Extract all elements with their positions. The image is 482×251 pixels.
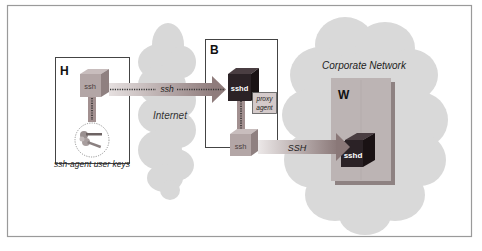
b-ssh-label: ssh — [235, 142, 247, 151]
agent-label: agent — [256, 104, 273, 112]
internet-label: Internet — [153, 110, 188, 121]
b-to-w-label: SSH — [288, 143, 307, 153]
proxy-label: proxy — [256, 95, 274, 103]
ssh-agent-forwarding-diagram: Internet Corporate Network W sshd B H — [0, 0, 482, 251]
keys-caption: ssh-agent user keys — [54, 159, 131, 169]
host-h-label: H — [60, 64, 69, 78]
h-to-b-label: ssh — [160, 84, 174, 94]
corporate-network-label: Corporate Network — [322, 60, 407, 71]
w-sshd-label: sshd — [344, 151, 363, 160]
host-b-label: B — [210, 43, 219, 57]
b-sshd-label: sshd — [231, 84, 249, 93]
h-ssh-label: ssh — [84, 82, 96, 91]
host-w-label: W — [338, 88, 350, 102]
ssh-agent-keys — [75, 123, 109, 157]
